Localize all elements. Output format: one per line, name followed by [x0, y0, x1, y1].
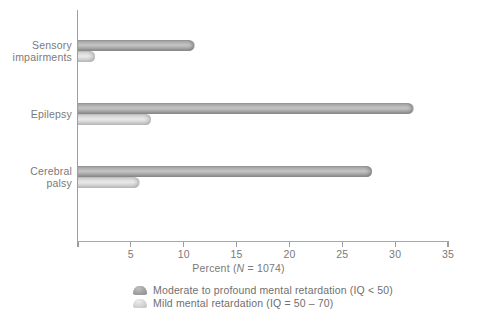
- category-label-epilepsy: Epilepsy: [0, 108, 72, 121]
- bar-cap: [133, 177, 140, 188]
- category-label-sensory: Sensory impairments: [0, 39, 72, 64]
- bar-cap: [88, 51, 95, 62]
- bars-layer: [78, 10, 448, 242]
- x-axis-title-prefix: Percent (: [192, 262, 236, 274]
- category-label-cerebral-palsy: Cerebral palsy: [0, 165, 72, 190]
- bar-cerebral-palsy-mild: [78, 177, 139, 188]
- bar-cerebral-palsy-moderate-profound: [78, 166, 372, 177]
- bar-cap: [365, 166, 372, 177]
- x-tick-15: [236, 242, 237, 247]
- x-tick-5: [130, 242, 131, 247]
- legend-label-mild: Mild mental retardation (IQ = 50 – 70): [153, 297, 334, 309]
- x-tick-label-25: 25: [336, 248, 348, 260]
- bar-cap: [407, 103, 414, 114]
- legend-item-moderate-profound: Moderate to profound mental retardation …: [133, 284, 393, 296]
- x-tick-label-15: 15: [231, 248, 243, 260]
- legend-item-mild: Mild mental retardation (IQ = 50 – 70): [133, 297, 393, 309]
- x-tick-label-35: 35: [442, 248, 454, 260]
- bar-epilepsy-moderate-profound: [78, 103, 413, 114]
- bar-cap: [144, 114, 151, 125]
- chart-legend: Moderate to profound mental retardation …: [133, 284, 393, 310]
- x-tick-10: [183, 242, 184, 247]
- bar-chart: 5101520253035 Sensory impairmentsEpileps…: [0, 0, 477, 323]
- bar-sensory-mild: [78, 51, 95, 62]
- legend-label-moderate-profound: Moderate to profound mental retardation …: [153, 284, 393, 296]
- x-axis-title: Percent (N = 1074): [0, 262, 477, 274]
- x-tick-0: [77, 242, 78, 247]
- x-tick-25: [342, 242, 343, 247]
- legend-swatch-moderate-profound: [133, 286, 147, 295]
- x-tick-35: [447, 242, 448, 247]
- bar-epilepsy-mild: [78, 114, 151, 125]
- x-tick-20: [289, 242, 290, 247]
- bar-sensory-moderate-profound: [78, 40, 194, 51]
- legend-swatch-mild: [133, 299, 147, 308]
- x-tick-30: [395, 242, 396, 247]
- x-tick-label-5: 5: [128, 248, 134, 260]
- x-tick-label-10: 10: [178, 248, 190, 260]
- x-axis-title-suffix: = 1074): [244, 262, 284, 274]
- x-tick-label-30: 30: [389, 248, 401, 260]
- bar-cap: [188, 40, 195, 51]
- x-tick-label-20: 20: [283, 248, 295, 260]
